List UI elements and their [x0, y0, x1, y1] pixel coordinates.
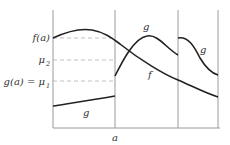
label-f-a: f(a) [32, 32, 51, 43]
curve-g-left [53, 96, 115, 106]
label-a: a [112, 132, 118, 143]
curve-g-middle [115, 36, 178, 76]
label-mu2: μ [39, 54, 46, 65]
label-g-middle: g [143, 21, 149, 32]
diagram-canvas: f(a) μ 2 g(a) = μ 1 a g g g f [0, 0, 230, 145]
label-f: f [147, 69, 154, 80]
label-g-right: g [200, 44, 206, 55]
label-mu2-subscript: 2 [45, 60, 50, 68]
label-mu1-subscript: 1 [46, 82, 50, 90]
label-g-left: g [83, 107, 89, 118]
curve-f [53, 29, 218, 97]
label-g-a-mu1: g(a) = μ [4, 76, 45, 87]
curve-g-right [178, 38, 218, 75]
